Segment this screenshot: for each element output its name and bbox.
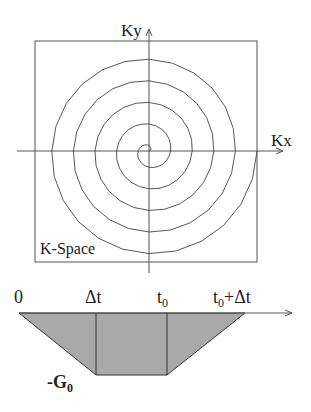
spiral-trajectory xyxy=(52,59,257,253)
delta-t-label: Δt xyxy=(85,287,102,307)
ky-label: Ky xyxy=(121,21,142,40)
kx-label: Kx xyxy=(271,131,292,150)
kspace-label: K-Space xyxy=(40,240,95,258)
gradient-trapezoid xyxy=(19,313,245,375)
t0-plus-delta-t-label: t0+Δt xyxy=(213,287,251,310)
time-zero-label: 0 xyxy=(14,287,23,307)
kspace-diagram: Ky Kx K-Space xyxy=(17,21,292,273)
diagram-canvas: Ky Kx K-Space 0 Δt t0 t0+Δt -G0 xyxy=(0,0,311,412)
t0-label: t0 xyxy=(157,287,168,310)
g0-label: -G0 xyxy=(47,372,73,395)
gradient-waveform: 0 Δt t0 t0+Δt -G0 xyxy=(14,287,292,395)
